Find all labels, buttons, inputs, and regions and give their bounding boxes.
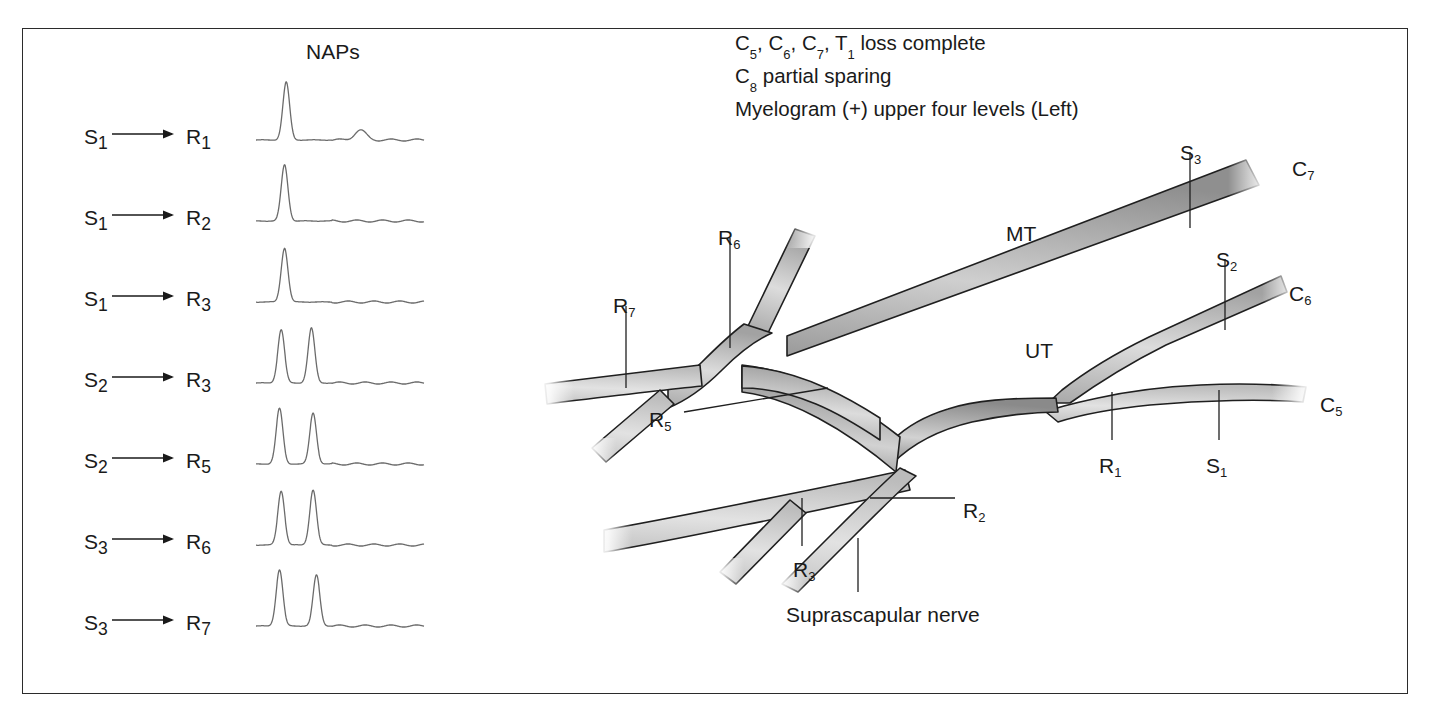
fade-right-c7 bbox=[1228, 148, 1274, 196]
plexus-label-ut: UT bbox=[1025, 340, 1053, 361]
fade-right-c5 bbox=[1272, 382, 1314, 410]
fade-left-r3 bbox=[598, 524, 632, 558]
fade-left-r3fork bbox=[714, 558, 744, 588]
plexus-label-s2: S2 bbox=[1216, 249, 1237, 270]
fade-top-r6 bbox=[786, 222, 824, 248]
plexus-label-c6: C6 bbox=[1289, 283, 1311, 304]
plexus-label-mt: MT bbox=[1006, 223, 1036, 244]
plexus-label-c7: C7 bbox=[1292, 158, 1314, 179]
plexus-label-r7: R7 bbox=[613, 295, 635, 316]
plexus-label-s3: S3 bbox=[1180, 142, 1201, 163]
brachial-plexus-svg bbox=[0, 0, 1430, 707]
plexus-label-r2: R2 bbox=[963, 500, 985, 521]
nerve-band-ut bbox=[893, 398, 1058, 463]
plexus-label-r1: R1 bbox=[1099, 455, 1121, 476]
plexus-label-r3: R3 bbox=[793, 559, 815, 580]
plexus-label-c5: C5 bbox=[1320, 394, 1342, 415]
plexus-label-s1: S1 bbox=[1206, 455, 1227, 476]
fade-left-fork bbox=[586, 438, 616, 468]
plexus-label-suprascapular-nerve: Suprascapular nerve bbox=[786, 604, 980, 625]
plexus-label-r6: R6 bbox=[718, 227, 740, 248]
fade-left-r7 bbox=[540, 376, 574, 410]
plexus-label-r5: R5 bbox=[649, 409, 671, 430]
nerve-band-junction-left bbox=[668, 324, 772, 408]
nerve-action-potential-figure: NAPs C5, C6, C7, T1 loss complete C8 par… bbox=[0, 0, 1430, 707]
plexus-nerve-shapes bbox=[540, 148, 1314, 598]
